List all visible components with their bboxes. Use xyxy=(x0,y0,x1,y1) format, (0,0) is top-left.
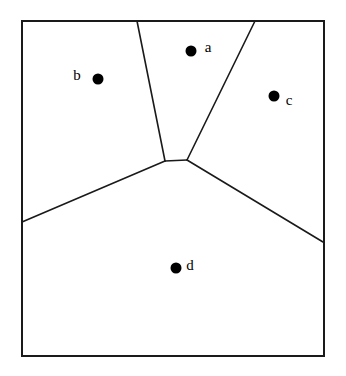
site-label-b: b xyxy=(73,67,81,83)
figure-background xyxy=(0,0,346,376)
site-point-a xyxy=(186,46,197,57)
site-label-d: d xyxy=(186,257,194,273)
edge-ad xyxy=(165,160,187,161)
site-point-c xyxy=(269,91,280,102)
site-label-a: a xyxy=(205,39,212,55)
site-point-b xyxy=(93,74,104,85)
site-point-d xyxy=(171,263,182,274)
site-label-c: c xyxy=(286,92,293,108)
voronoi-canvas: abcd xyxy=(0,0,346,376)
voronoi-figure: abcd xyxy=(0,0,346,376)
